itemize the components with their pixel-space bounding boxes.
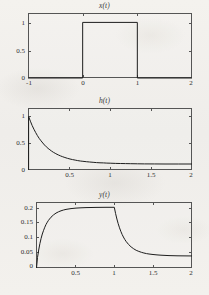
x-tick-label-h-2: 1.5 [147,171,156,179]
x-tick-label-h-3: 2 [189,171,193,179]
y-tick-label-h-1: 0.5 [8,140,25,147]
plot-title-y: y(t) [0,190,209,199]
y-tick-label-y-2: 0.1 [12,233,33,240]
curve-x-of-t [28,13,192,78]
curve-h-of-t [28,108,192,170]
x-tick-label-x-1: 0 [81,79,85,87]
y-tick-label-x-1: 0.5 [8,47,25,54]
plot-panel-x: x(t) 1 0.5 0 -1 0 1 2 [0,0,209,95]
x-tick-label-x-3: 2 [189,79,193,87]
y-tick-label-x-2: 0 [14,75,25,82]
y-tick-label-y-3: 0.05 [8,248,33,255]
x-tick-label-h-0: 0.5 [65,171,74,179]
x-tick-label-y-1: 1 [112,269,116,277]
y-tick-label-y-1: 0.15 [8,219,33,226]
plot-panel-y: y(t) 0.2 0.15 0.1 0.05 0 0.5 1 1.5 2 [0,190,209,295]
y-tick-label-y-0: 0.2 [12,204,33,211]
y-tick-label-x-0: 1 [14,20,25,27]
y-tick-label-y-4: 0 [22,263,33,270]
plot-title-h: h(t) [0,96,209,105]
x-tick-label-x-0: -1 [26,79,32,87]
convolution-figure: x(t) 1 0.5 0 -1 0 1 2 h(t) 1 0.5 0 [0,0,209,295]
x-tick-label-x-2: 1 [136,79,140,87]
y-tick-label-h-2: 0 [14,167,25,174]
plot-panel-h: h(t) 1 0.5 0 0.5 1 1.5 2 [0,95,209,190]
curve-y-of-t [36,202,192,268]
x-tick-label-y-0: 0.5 [71,269,80,277]
x-tick-label-y-3: 2 [189,269,193,277]
plot-title-x: x(t) [0,1,209,10]
x-tick-label-h-1: 1 [108,171,112,179]
x-tick-label-y-2: 1.5 [149,269,158,277]
y-tick-label-h-0: 1 [14,113,25,120]
